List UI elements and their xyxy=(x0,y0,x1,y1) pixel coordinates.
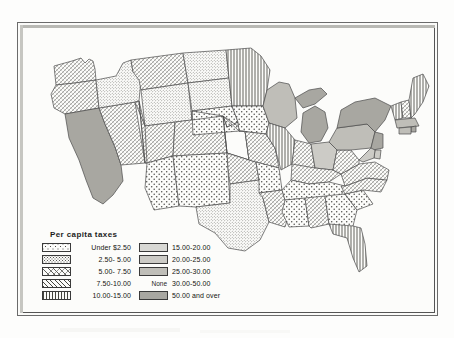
state-NE[interactable] xyxy=(192,106,239,135)
legend-label: Under $2.50 xyxy=(75,244,131,251)
legend-swatch-diagonal-lines xyxy=(42,279,71,288)
legend-label: 15.00-20.00 xyxy=(172,244,234,251)
legend-swatch-fine-stipple xyxy=(42,255,71,264)
map-legend: Per capita taxes Under $2.50 2.50- 5.00 … xyxy=(42,230,242,310)
legend-swatch-vertical-lines xyxy=(42,291,71,300)
legend-swatch-solid-gray-1 xyxy=(139,243,168,252)
legend-label: 50.00 and over xyxy=(172,292,234,299)
legend-swatch-solid-gray-3 xyxy=(139,267,168,276)
legend-item[interactable]: None 30.00-50.00 xyxy=(139,278,234,289)
legend-label: 2.50- 5.00 xyxy=(75,256,131,263)
scan-artifact xyxy=(200,330,290,333)
state-OR[interactable] xyxy=(51,80,99,114)
state-ND[interactable] xyxy=(183,50,229,83)
legend-label: 7.50-10.00 xyxy=(75,280,131,287)
legend-label: 10.00-15.00 xyxy=(75,292,131,299)
state-NM[interactable] xyxy=(173,153,230,207)
legend-swatch-coarse-stipple xyxy=(42,243,71,252)
legend-swatch-cross-hatch xyxy=(42,267,71,276)
state-SD[interactable] xyxy=(188,78,232,111)
legend-item[interactable]: 2.50- 5.00 xyxy=(42,254,131,265)
legend-columns: Under $2.50 2.50- 5.00 5.00- 7.50 7.50-1… xyxy=(42,242,242,301)
legend-item[interactable]: 5.00- 7.50 xyxy=(42,266,131,277)
legend-label: 25.00-30.00 xyxy=(172,268,234,275)
legend-column-right: 15.00-20.00 20.00-25.00 25.00-30.00 None… xyxy=(139,242,234,301)
legend-swatch-solid-gray-4 xyxy=(139,291,168,300)
legend-item[interactable]: Under $2.50 xyxy=(42,242,131,253)
legend-title: Per capita taxes xyxy=(50,230,242,239)
state-CT[interactable] xyxy=(399,127,411,134)
legend-item[interactable]: 20.00-25.00 xyxy=(139,254,234,265)
map-page: Per capita taxes Under $2.50 2.50- 5.00 … xyxy=(0,0,454,338)
legend-none-label: None xyxy=(139,279,168,288)
legend-item[interactable]: 7.50-10.00 xyxy=(42,278,131,289)
state-RI[interactable] xyxy=(411,126,416,132)
legend-label: 20.00-25.00 xyxy=(172,256,234,263)
legend-item[interactable]: 25.00-30.00 xyxy=(139,266,234,277)
legend-item[interactable]: 50.00 and over xyxy=(139,290,234,301)
legend-label: 5.00- 7.50 xyxy=(75,268,131,275)
legend-column-left: Under $2.50 2.50- 5.00 5.00- 7.50 7.50-1… xyxy=(42,242,131,301)
legend-swatch-solid-gray-2 xyxy=(139,255,168,264)
legend-label: 30.00-50.00 xyxy=(172,280,234,287)
state-WY[interactable] xyxy=(141,83,192,126)
legend-item[interactable]: 15.00-20.00 xyxy=(139,242,234,253)
legend-item[interactable]: 10.00-15.00 xyxy=(42,290,131,301)
scan-artifact xyxy=(60,328,180,332)
